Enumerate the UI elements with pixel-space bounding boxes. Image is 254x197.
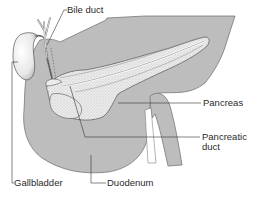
label-duodenum: Duodenum — [107, 178, 153, 188]
label-pancreatic-duct-line2: duct — [202, 142, 220, 152]
label-bile-duct: Bile duct — [67, 5, 103, 15]
label-pancreas: Pancreas — [203, 98, 243, 108]
leader-gallbladder — [12, 62, 18, 183]
label-gallbladder: Gallbladder — [14, 178, 63, 188]
limb-gap — [145, 108, 156, 163]
